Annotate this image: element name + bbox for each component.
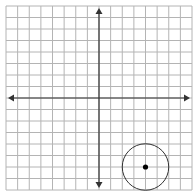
- x-axis-right-arrow-icon: [184, 95, 190, 102]
- coordinate-grid: [0, 0, 194, 193]
- y-axis-down-arrow-icon: [96, 182, 103, 188]
- axes: [8, 8, 190, 188]
- y-axis-up-arrow-icon: [96, 8, 103, 14]
- circle-center-point: [143, 164, 148, 169]
- x-axis-left-arrow-icon: [8, 95, 14, 102]
